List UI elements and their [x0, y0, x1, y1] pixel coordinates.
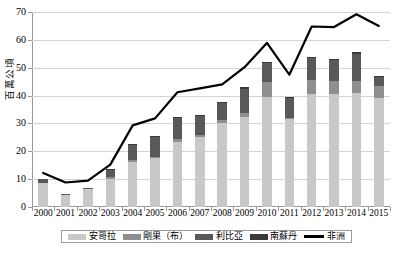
x-tick-label: 2012: [302, 209, 321, 219]
legend-color-swatch: [250, 234, 268, 240]
x-axis-labels: 2000200120022003200420052006200720082009…: [32, 209, 390, 225]
legend-item[interactable]: 剛果（布）: [123, 232, 189, 241]
y-axis-title: 百萬公頃: [5, 47, 15, 111]
x-tick-label: 2001: [56, 209, 75, 219]
x-tick-label: 2000: [34, 209, 53, 219]
y-tick-label: 0: [21, 202, 26, 212]
line-path: [43, 14, 379, 182]
chart-legend: 安哥拉剛果（布）利比亞南蘇丹非洲: [61, 230, 352, 243]
x-tick-label: 2005: [146, 209, 165, 219]
x-tick-label: 2011: [280, 209, 299, 219]
y-tick-label: 10: [16, 174, 26, 184]
x-tick: [390, 207, 391, 211]
legend-label: 非洲: [327, 232, 345, 241]
x-tick-label: 2013: [325, 209, 344, 219]
x-tick-label: 2014: [347, 209, 366, 219]
legend-label: 安哥拉: [89, 232, 116, 241]
legend-item[interactable]: 利比亞: [195, 232, 243, 241]
x-tick-label: 2002: [78, 209, 97, 219]
x-tick-label: 2007: [190, 209, 209, 219]
y-tick-label: 30: [16, 118, 26, 128]
legend-label: 剛果（布）: [143, 232, 188, 241]
y-tick-label: 20: [16, 146, 26, 156]
x-tick-label: 2009: [235, 209, 254, 219]
x-tick-label: 2010: [257, 209, 276, 219]
y-tick-label: 60: [16, 35, 26, 45]
x-tick-label: 2004: [123, 209, 142, 219]
plot-area: 010203040506070: [32, 12, 390, 207]
legend-line-marker: [304, 235, 324, 238]
y-tick-label: 70: [16, 7, 26, 17]
legend-color-swatch: [195, 234, 213, 240]
legend-label: 利比亞: [216, 232, 243, 241]
legend-color-swatch: [123, 234, 141, 240]
legend-color-swatch: [68, 234, 86, 240]
x-tick-label: 2006: [168, 209, 187, 219]
legend-item[interactable]: 南蘇丹: [250, 232, 298, 241]
y-tick-label: 40: [16, 91, 26, 101]
x-tick-label: 2015: [369, 209, 388, 219]
line-series-layer: [32, 12, 390, 207]
y-tick-label: 50: [16, 63, 26, 73]
x-tick-label: 2008: [213, 209, 232, 219]
legend-item[interactable]: 非洲: [304, 232, 345, 241]
x-tick-label: 2003: [101, 209, 120, 219]
stacked-bar-line-chart: 百萬公頃 010203040506070 2000200120022003200…: [0, 0, 403, 254]
legend-label: 南蘇丹: [270, 232, 297, 241]
legend-item[interactable]: 安哥拉: [68, 232, 116, 241]
